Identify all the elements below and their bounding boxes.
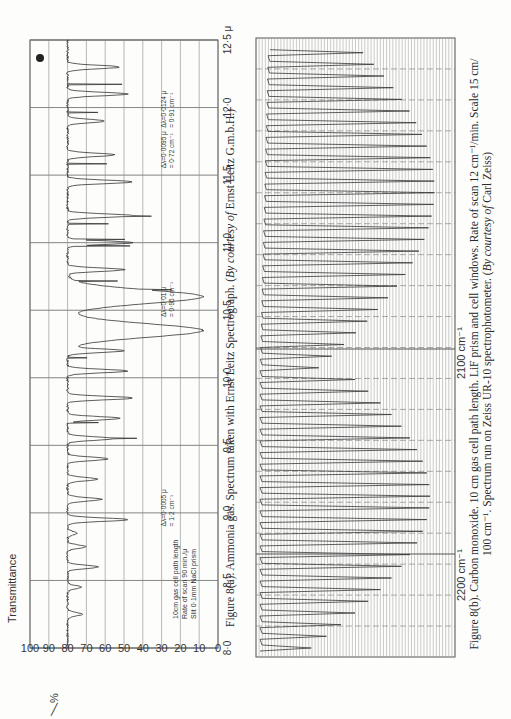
y-tick-label: 100 (21, 642, 39, 654)
y-axis-unit: ╱ % (48, 693, 61, 713)
x-label-2100: 2100 cm⁻¹ (455, 327, 468, 379)
caption-b-suffix: Carl Zeiss) (481, 152, 493, 206)
caption-b-line2: 100 cm⁻¹. Spectrum run on Zeiss UR-10 sp… (481, 271, 493, 556)
resolution-annotation: Δλ=0·0095 μ (160, 131, 168, 168)
chart-ammonia-spectrum: 1009080706050403020100 8·08·59·09·510·01… (21, 25, 233, 655)
y-axis-title: Transmittance (6, 554, 18, 623)
y-tick-label: 70 (80, 642, 92, 654)
caption-b-line1: Figure 8(b). Carbon monoxide. 10 cm gas … (468, 58, 480, 649)
x-label-2200: 2200 cm⁻¹ (455, 549, 468, 601)
x-tick-label: 12·5 μ (222, 25, 233, 54)
condition-text: 10cm gas cell path length (172, 540, 180, 619)
figure-b-caption: Figure 8(b). Carbon monoxide. 10 cm gas … (468, 29, 494, 679)
caption-b-italic: By courtesy of (481, 206, 493, 272)
y-tick-label: 20 (174, 642, 186, 654)
resolution-annotation: Δλ=0·0124 μ (160, 90, 168, 127)
figure-a-caption: Figure 8(a). Ammonia gas. Spectrum taken… (224, 109, 237, 627)
caption-a-text: Figure 8(a). Ammonia gas. Spectrum taken… (224, 278, 236, 627)
chart-a-annotations: 10cm gas cell path lengthRate of scan 90… (160, 90, 198, 619)
y-tick-label: 60 (99, 642, 111, 654)
y-tick-label: 0 (215, 642, 221, 654)
resolution-annotation: = 0·95 cm⁻¹ (168, 281, 175, 317)
resolution-annotation: Δλ=0·01 μ (160, 287, 168, 317)
condition-text: Slit 0·1mm NaCl prism (190, 549, 198, 619)
condition-text: Rate of scan 90 min./μ (181, 549, 189, 619)
y-tick-label: 40 (137, 642, 149, 654)
punch-hole-mark (36, 54, 44, 62)
chart-co-spectrum (256, 38, 455, 657)
y-tick-label: 80 (61, 642, 73, 654)
y-tick-label: 90 (43, 642, 55, 654)
resolution-annotation: = 1·2 cm⁻¹ (168, 494, 175, 526)
y-tick-label: 10 (193, 642, 205, 654)
resolution-annotation: Δλ=0·0005 μ (160, 489, 168, 526)
rotated-book-page: 1009080706050403020100 8·08·59·09·510·01… (0, 0, 511, 719)
caption-a-suffix: Ernst Leitz G.m.b.H.) (224, 109, 236, 212)
y-tick-label: 30 (155, 642, 167, 654)
x-tick-label: 8·0 (222, 640, 233, 655)
y-tick-label: 50 (118, 642, 130, 654)
resolution-annotation: = 0·72 cm⁻¹ (168, 132, 175, 168)
caption-a-italic: By courtesy of (224, 212, 236, 278)
figure-canvas: 1009080706050403020100 8·08·59·09·510·01… (0, 0, 511, 719)
resolution-annotation: = 0·91 cm⁻¹ (168, 92, 175, 128)
